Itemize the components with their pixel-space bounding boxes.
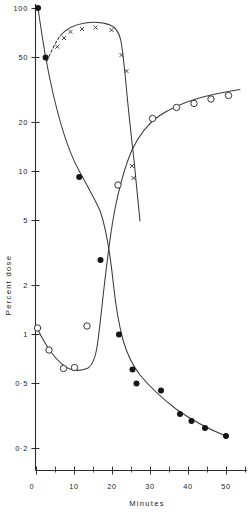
series-filled-circles <box>35 5 229 439</box>
axes-group <box>36 4 248 471</box>
data-point <box>62 36 66 40</box>
data-point <box>149 115 155 121</box>
x-markers-curve <box>60 22 140 221</box>
data-point <box>84 323 90 329</box>
data-point <box>71 364 77 370</box>
data-point <box>191 100 197 106</box>
y-tick-label-20: 20 <box>18 118 28 127</box>
data-point <box>34 325 40 331</box>
x-tick-label-30: 30 <box>145 482 155 491</box>
y-tick-label-0-2: 0·2 <box>15 444 28 453</box>
y-tick-label-0-5: 0·5 <box>15 379 28 388</box>
data-point <box>80 27 84 31</box>
x-tick-label-50: 50 <box>221 482 231 491</box>
x-tick-label-40: 40 <box>183 482 193 491</box>
data-point <box>76 174 82 180</box>
x-axis-title: Minutes <box>129 499 165 508</box>
data-point <box>35 5 41 11</box>
data-point <box>132 176 136 180</box>
data-point <box>115 182 121 188</box>
y-tick-label-2: 2 <box>23 281 28 290</box>
data-point <box>189 418 195 424</box>
y-tick-label-100: 100 <box>14 4 28 13</box>
y-tick-label-50: 50 <box>18 53 28 62</box>
y-axis-title: Percent dose <box>4 255 13 315</box>
chart-svg: 100 50 20 10 5 2 1 0·5 0·2 0 10 2 <box>0 0 252 517</box>
data-point <box>98 257 104 263</box>
series-x-markers <box>47 22 140 221</box>
x-tick-label-20: 20 <box>107 482 117 491</box>
x-markers-rise-dashed <box>47 36 60 61</box>
open-circles-curve <box>38 90 241 371</box>
data-point <box>46 347 52 353</box>
data-point <box>130 367 136 373</box>
chart-figure: 100 50 20 10 5 2 1 0·5 0·2 0 10 2 <box>0 0 252 517</box>
y-tick-label-5: 5 <box>23 216 28 225</box>
data-point <box>208 96 214 102</box>
data-point <box>202 425 208 431</box>
data-point <box>110 28 114 32</box>
data-point <box>55 45 59 49</box>
data-point <box>130 164 134 168</box>
data-point <box>94 26 98 30</box>
y-tick-label-1: 1 <box>23 330 28 339</box>
data-point <box>177 411 183 417</box>
series-open-circles <box>34 90 240 372</box>
x-tick-label-10: 10 <box>69 482 79 491</box>
data-point <box>173 104 179 110</box>
data-point <box>69 30 73 34</box>
data-point <box>225 92 231 98</box>
data-point <box>223 433 229 439</box>
y-tick-label-10: 10 <box>18 167 28 176</box>
data-point <box>60 365 66 371</box>
data-point <box>116 332 122 338</box>
x-tick-label-0: 0 <box>30 482 35 491</box>
data-point <box>134 381 140 387</box>
data-point <box>158 388 164 394</box>
